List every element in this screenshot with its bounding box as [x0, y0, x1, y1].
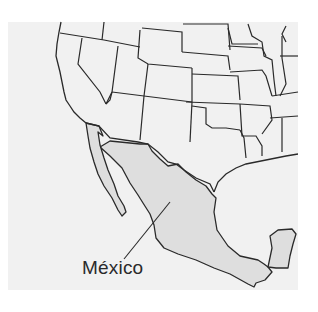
- us-west-coast: [56, 22, 86, 123]
- baja-california: [86, 123, 126, 216]
- mexico-label: México: [82, 257, 143, 279]
- yucatan: [268, 229, 296, 268]
- us-gulf-coast: [214, 154, 298, 192]
- map-svg: [0, 0, 318, 312]
